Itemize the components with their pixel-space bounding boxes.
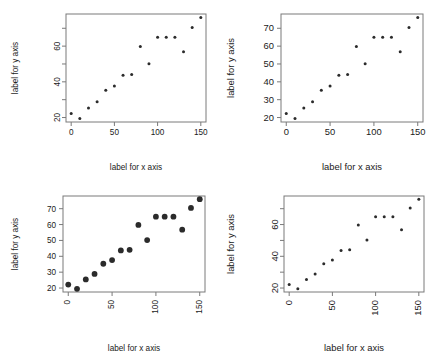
- y-tick-label: 30: [47, 268, 57, 277]
- y-tick-label: 70: [264, 22, 274, 33]
- data-point: [65, 282, 71, 288]
- data-point: [337, 74, 340, 77]
- data-point: [399, 50, 402, 53]
- x-tick-label: 50: [110, 128, 120, 137]
- data-point: [416, 16, 419, 19]
- data-point: [130, 73, 133, 76]
- data-point: [391, 215, 394, 218]
- data-point: [311, 100, 314, 103]
- y-axis-label: label for y axis: [11, 218, 20, 270]
- y-tick-label: 40: [47, 252, 57, 261]
- x-tick-label: 100: [151, 128, 165, 137]
- data-point: [100, 261, 106, 267]
- plot-box: [66, 14, 206, 122]
- data-point: [331, 259, 334, 262]
- x-tick-label: 150: [412, 300, 423, 316]
- data-point: [285, 112, 288, 115]
- data-point: [340, 249, 343, 252]
- data-point: [135, 222, 141, 228]
- data-point: [144, 237, 150, 243]
- data-point: [314, 272, 317, 275]
- y-tick-label: 40: [269, 251, 280, 261]
- data-point: [70, 112, 73, 115]
- data-point: [199, 16, 202, 19]
- y-axis-label: label for y axis: [225, 38, 236, 98]
- data-point: [296, 287, 299, 290]
- y-tick-label: 50: [47, 236, 57, 245]
- scatter-panel-4: 050100150204060label for x axislabel for…: [218, 180, 436, 361]
- x-tick-label: 150: [194, 128, 208, 137]
- data-point: [92, 271, 98, 277]
- data-point: [118, 248, 124, 254]
- y-tick-label: 40: [264, 76, 274, 87]
- data-point: [78, 117, 81, 120]
- data-point: [156, 36, 159, 39]
- x-tick-label: 150: [410, 126, 426, 137]
- data-point: [127, 247, 133, 253]
- scatter-panel-3: 050100150203040506070label for x axislab…: [0, 180, 218, 361]
- data-point: [390, 36, 393, 39]
- data-point: [381, 36, 384, 39]
- y-tick-label: 20: [53, 113, 62, 123]
- data-point: [83, 277, 89, 283]
- x-tick-label: 150: [195, 300, 204, 314]
- data-point: [179, 227, 185, 233]
- data-point: [153, 214, 159, 220]
- x-tick-label: 0: [283, 300, 294, 305]
- data-point: [162, 214, 168, 220]
- x-tick-label: 0: [69, 128, 74, 137]
- scatter-panel-1: 050100150204060label for x axislabel for…: [0, 0, 218, 180]
- data-point: [182, 50, 185, 53]
- x-tick-label: 0: [63, 300, 72, 305]
- data-point: [113, 85, 116, 88]
- plot-box: [281, 14, 423, 122]
- data-point: [320, 89, 323, 92]
- x-tick-label: 100: [366, 126, 382, 137]
- data-point: [173, 36, 176, 39]
- x-tick-label: 50: [107, 300, 116, 310]
- figure-grid: 050100150204060label for x axislabel for…: [0, 0, 436, 361]
- plot-box: [284, 196, 424, 292]
- data-point: [400, 228, 403, 231]
- data-point: [104, 89, 107, 92]
- data-point: [322, 262, 325, 265]
- y-axis-label: label for y axis: [11, 42, 20, 94]
- data-point: [355, 45, 358, 48]
- data-point: [409, 206, 412, 209]
- x-tick-label: 50: [325, 126, 335, 137]
- data-point: [417, 198, 420, 201]
- x-tick-label: 0: [284, 126, 289, 137]
- x-tick-label: 50: [326, 300, 337, 310]
- y-tick-label: 60: [47, 221, 57, 230]
- x-axis-label: label for x axis: [322, 161, 382, 172]
- data-point: [197, 196, 203, 202]
- data-point: [346, 73, 349, 76]
- y-tick-label: 20: [269, 283, 280, 293]
- data-point: [139, 45, 142, 48]
- y-tick-label: 40: [53, 77, 62, 87]
- data-point: [305, 278, 308, 281]
- x-axis-label: label for x axis: [110, 163, 162, 172]
- data-point: [188, 205, 194, 211]
- data-point: [357, 223, 360, 226]
- x-tick-label: 100: [151, 300, 160, 314]
- data-point: [348, 248, 351, 251]
- data-point: [302, 106, 305, 109]
- scatter-panel-2: 050100150203040506070label for x axislab…: [218, 0, 436, 180]
- x-axis-label: label for x axis: [108, 344, 160, 353]
- y-tick-label: 20: [264, 112, 274, 123]
- y-tick-label: 60: [264, 40, 274, 51]
- data-point: [96, 100, 99, 103]
- data-point: [109, 257, 115, 263]
- y-tick-label: 20: [47, 284, 57, 293]
- data-point: [191, 26, 194, 29]
- y-tick-label: 60: [53, 41, 62, 51]
- data-point: [374, 215, 377, 218]
- data-point: [407, 26, 410, 29]
- data-point: [74, 286, 80, 292]
- data-point: [365, 239, 368, 242]
- data-point: [329, 85, 332, 88]
- data-point: [294, 117, 297, 120]
- data-point: [372, 36, 375, 39]
- y-tick-label: 50: [264, 58, 274, 69]
